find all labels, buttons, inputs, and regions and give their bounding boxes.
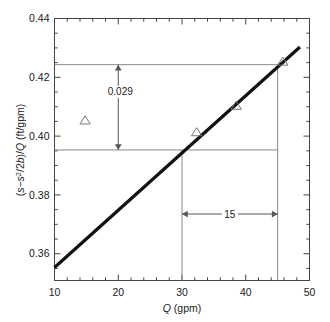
fitted-line: [55, 47, 300, 268]
chart-figure: 10203040500.360.380.400.420.44 0.029 15 …: [0, 0, 330, 322]
x-tick-label: 20: [112, 286, 124, 298]
y-tick-label: 0.44: [29, 12, 50, 24]
y-axis-title-Q: Q: [14, 143, 26, 151]
run-value-label: 15: [224, 209, 236, 220]
rise-value-label: 0.029: [108, 86, 133, 97]
x-axis-title-symbol: Q: [163, 302, 171, 314]
y-axis-title: (s−s2/2b)/Q (ft/gpm): [14, 104, 26, 197]
y-axis-title-units: (ft/gpm): [14, 104, 26, 143]
arrow-head: [115, 144, 122, 150]
fit-line-segment: [55, 47, 300, 268]
x-tick-label: 30: [176, 286, 188, 298]
y-tick-label: 0.40: [29, 130, 50, 142]
arrow-head: [182, 211, 188, 218]
data-point-triangle: [80, 116, 90, 124]
x-axis-title: Q (gpm): [163, 302, 202, 314]
y-tick-label: 0.42: [29, 71, 50, 83]
y-tick-label: 0.36: [29, 247, 50, 259]
y-tick-label: 0.38: [29, 189, 50, 201]
axis-tick-labels: 10203040500.360.380.400.420.44: [29, 12, 315, 297]
x-tick-label: 10: [49, 286, 61, 298]
y-axis-title-slash2: /2: [14, 163, 26, 172]
scatter-plot-svg: 10203040500.360.380.400.420.44 0.029 15 …: [0, 0, 330, 322]
x-tick-label: 40: [240, 286, 252, 298]
x-tick-label: 50: [304, 286, 316, 298]
x-axis-title-units: (gpm): [171, 302, 201, 314]
arrow-head: [115, 65, 122, 71]
arrow-head: [272, 211, 278, 218]
